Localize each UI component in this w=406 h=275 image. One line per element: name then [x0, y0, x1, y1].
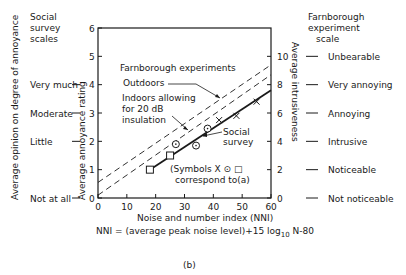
- farnborough-scale: FarnboroughexperimentscaleUnbearableVery…: [306, 12, 394, 204]
- y-tick-label: 1: [89, 165, 95, 175]
- right-tick-label: 0: [277, 194, 283, 204]
- outdoors-annotation: Outdoors: [123, 78, 165, 88]
- x-tick-label: 50: [237, 202, 249, 212]
- svg-text:survey: survey: [30, 23, 61, 33]
- right-axis-ticks: 0246810: [267, 52, 289, 204]
- farnborough-scale-level: Annoying: [328, 109, 370, 119]
- svg-text:Farnborough: Farnborough: [308, 12, 364, 22]
- annoyance-chart: 0123456 0102030405060 0246810 Socialsurv…: [0, 0, 406, 275]
- svg-text:scales: scales: [30, 34, 58, 44]
- symbols-note: correspond to(a): [175, 175, 250, 185]
- x-tick-label: 20: [150, 202, 162, 212]
- social-scale-level: Very much: [30, 80, 78, 90]
- x-tick-label: 10: [121, 202, 133, 212]
- panel-label: (b): [183, 260, 196, 270]
- y-tick-label: 3: [89, 109, 95, 119]
- farnborough-scale-level: Noticeable: [328, 165, 376, 175]
- symbols-note: (Symbols X ⊙ □: [170, 164, 243, 174]
- square-marker: [146, 166, 153, 173]
- y-tick-label: 6: [89, 24, 95, 34]
- left-axis-ticks: 0123456: [89, 24, 102, 204]
- social-survey-scale: SocialsurveyscalesVery muchModerateLittl…: [30, 12, 80, 204]
- y-tick-label: 4: [89, 80, 95, 90]
- x-axis-label: Noise and number index (NNI): [137, 213, 273, 223]
- indoors-annotation: insulation: [122, 115, 166, 125]
- svg-text:scale: scale: [316, 34, 340, 44]
- y-axis-label-far-left: Average opinion on degree of annoyance: [10, 14, 20, 200]
- farnborough-scale-level: Not noticeable: [328, 194, 394, 204]
- svg-text:Social: Social: [30, 12, 57, 22]
- right-tick-label: 8: [277, 80, 283, 90]
- right-tick-label: 2: [277, 165, 283, 175]
- nni-formula: NNI = (average peak noise level)+15 log1…: [96, 226, 314, 239]
- social-scale-level: Not at all: [30, 194, 71, 204]
- svg-text:experiment: experiment: [308, 23, 360, 33]
- bottom-axis-ticks: 0102030405060: [95, 194, 277, 212]
- social-survey-annotation: Social: [223, 127, 250, 137]
- cross-marker: [216, 117, 222, 123]
- x-tick-label: 40: [208, 202, 220, 212]
- y-axis-label-left: Average annoyance rating: [77, 81, 87, 200]
- farnborough-scale-level: Very annoying: [328, 80, 393, 90]
- right-tick-label: 4: [277, 137, 283, 147]
- farnborough-scale-level: Intrusive: [328, 137, 368, 147]
- y-axis-label-right: Average intrusiveness: [290, 42, 300, 142]
- y-tick-label: 2: [89, 137, 95, 147]
- y-tick-label: 5: [89, 52, 95, 62]
- annotations: Farnborough experimentsOutdoorsIndoors a…: [120, 63, 254, 185]
- farnborough-scale-level: Unbearable: [328, 52, 380, 62]
- x-tick-label: 60: [265, 202, 277, 212]
- right-tick-label: 6: [277, 109, 283, 119]
- x-tick-label: 0: [95, 202, 101, 212]
- indoors-annotation: Indoors allowing: [122, 93, 196, 103]
- social-survey-annotation: survey: [223, 137, 254, 147]
- social-scale-level: Little: [30, 137, 53, 147]
- right-tick-label: 10: [277, 52, 289, 62]
- square-marker: [167, 152, 174, 159]
- y-tick-label: 0: [89, 194, 95, 204]
- x-tick-label: 30: [179, 202, 191, 212]
- indoors-annotation: for 20 dB: [122, 104, 163, 114]
- farnborough-annotation: Farnborough experiments: [120, 63, 236, 73]
- social-scale-level: Moderate: [30, 109, 73, 119]
